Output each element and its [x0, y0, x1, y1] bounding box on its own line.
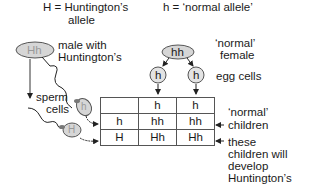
mother-label-line2: female: [220, 49, 255, 61]
punnett-cell: Hh: [139, 130, 177, 146]
legend-dominant: H = Huntington’s: [43, 1, 128, 13]
affected-line1: these: [228, 136, 256, 148]
mother-genotype: hh: [171, 46, 184, 58]
punnett-row: h hh hh: [101, 114, 215, 130]
punnett-cell: Hh: [177, 130, 215, 146]
punnett-cell: hh: [139, 114, 177, 130]
punnett-corner: [101, 98, 139, 114]
mother-label-line1: ‘normal’: [215, 37, 255, 49]
sperm-midpiece-icon: [59, 125, 65, 129]
normal-children-line1: ‘normal’: [228, 106, 268, 118]
arrow-icon: [187, 58, 193, 66]
punnett-cell: hh: [177, 114, 215, 130]
punnett-header-row: h h: [101, 98, 215, 114]
egg-cells-label: egg cells: [216, 70, 261, 82]
sperm-midpiece-icon: [74, 99, 80, 103]
egg-allele-2: h: [193, 69, 199, 81]
legend-recessive: h = ‘normal allele’: [163, 1, 253, 13]
sperm-label-line1: sperm: [36, 91, 68, 103]
arrow-icon: [80, 138, 98, 141]
punnett-row: H Hh Hh: [101, 130, 215, 146]
sperm-allele-H: H: [68, 124, 75, 136]
father-genotype: Hh: [27, 44, 42, 56]
punnett-square: h h h hh hh H Hh Hh: [100, 97, 215, 146]
arrow-icon: [163, 58, 169, 66]
normal-children-line2: children: [228, 119, 268, 131]
affected-line3: develop: [228, 160, 268, 172]
punnett-sperm-allele: H: [101, 130, 139, 146]
punnett-sperm-allele: h: [101, 114, 139, 130]
father-label-line1: male with: [58, 39, 107, 51]
sperm-label-line2: cells: [46, 103, 69, 115]
affected-line2: children will: [228, 148, 287, 160]
egg-allele-1: h: [155, 69, 161, 81]
affected-line4: Huntington’s: [228, 172, 292, 184]
sperm-allele-h: h: [81, 101, 87, 113]
legend-dominant-line2: allele: [68, 14, 95, 26]
punnett-egg-h: h: [177, 98, 215, 114]
punnett-egg-h: h: [139, 98, 177, 114]
father-label-line2: Huntington’s: [58, 51, 122, 63]
arrow-icon: [86, 116, 98, 124]
